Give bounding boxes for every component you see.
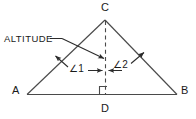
geometry-figure: ALTITUDE C A B D ∠1 ∠2 bbox=[0, 0, 196, 119]
angle-label-2: ∠2 bbox=[113, 60, 128, 70]
triangle-side-ac bbox=[27, 20, 105, 95]
altitude-callout-label: ALTITUDE bbox=[4, 34, 53, 44]
vertex-label-a: A bbox=[12, 85, 20, 96]
figure-canvas bbox=[0, 0, 196, 119]
vertex-label-c: C bbox=[101, 2, 109, 13]
vertex-label-d: D bbox=[101, 103, 109, 114]
vertex-label-b: B bbox=[181, 85, 189, 96]
triangle-side-cb bbox=[105, 20, 177, 95]
angle-label-1: ∠1 bbox=[69, 64, 84, 74]
